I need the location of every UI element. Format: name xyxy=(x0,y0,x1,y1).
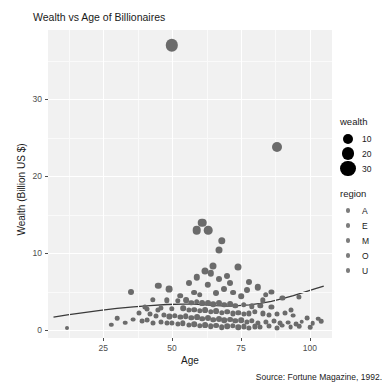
source-caption: Source: Fortune Magazine, 1992. xyxy=(256,372,382,382)
data-point xyxy=(139,319,144,324)
legend-item-label: U xyxy=(362,266,368,276)
data-point xyxy=(235,264,242,271)
legend-dot-icon xyxy=(342,147,355,160)
legend-dot-icon xyxy=(346,223,350,227)
data-point xyxy=(123,320,128,325)
data-point xyxy=(241,324,246,329)
legend-title: wealth xyxy=(340,116,371,127)
legend-swatch xyxy=(340,238,356,242)
x-tick-mark xyxy=(172,338,173,341)
gridline-major-horizontal xyxy=(48,330,332,331)
y-tick-label: 10 xyxy=(33,248,42,258)
data-point xyxy=(269,289,274,294)
data-point xyxy=(207,270,213,276)
gridline-major-horizontal xyxy=(48,176,332,177)
x-tick-label: 50 xyxy=(167,343,176,353)
data-point xyxy=(148,312,153,317)
data-point xyxy=(291,313,296,318)
data-point xyxy=(230,290,236,296)
data-point xyxy=(227,280,233,286)
data-point xyxy=(283,310,288,315)
data-point xyxy=(213,290,219,296)
legend-swatch xyxy=(340,161,356,176)
data-point xyxy=(166,285,173,292)
legend-item[interactable]: U xyxy=(340,263,369,278)
legend-dot-icon xyxy=(340,161,355,176)
legend-item[interactable]: E xyxy=(340,218,369,233)
legend-region: regionAEMOU xyxy=(340,188,369,278)
legend-item-label: O xyxy=(362,251,369,261)
data-point xyxy=(272,319,277,324)
gridline-minor-horizontal xyxy=(48,292,332,293)
legend-item-label: A xyxy=(362,206,368,216)
data-point xyxy=(238,317,244,323)
legend-swatch xyxy=(340,208,356,212)
data-point xyxy=(155,282,161,288)
data-point xyxy=(280,295,285,300)
gridline-minor-horizontal xyxy=(48,215,332,216)
data-point xyxy=(204,226,213,235)
data-point xyxy=(252,324,257,329)
data-point xyxy=(244,287,250,293)
legend-item[interactable]: 20 xyxy=(340,146,371,161)
data-point xyxy=(266,312,271,317)
data-point xyxy=(150,320,155,325)
data-point xyxy=(319,319,324,324)
legend-item[interactable]: 10 xyxy=(340,131,371,146)
gridline-major-horizontal xyxy=(48,253,332,254)
data-point xyxy=(258,325,263,330)
data-point xyxy=(128,289,134,295)
data-point xyxy=(210,263,217,270)
legend-item-label: 30 xyxy=(362,164,371,174)
data-point xyxy=(169,320,174,325)
page-title: Wealth vs Age of Billionaires xyxy=(33,11,165,23)
y-tick-label: 0 xyxy=(37,325,42,335)
gridline-minor-vertical xyxy=(275,30,276,338)
data-point xyxy=(288,307,293,312)
data-point xyxy=(224,273,230,279)
data-point xyxy=(145,306,150,311)
x-tick-label: 25 xyxy=(98,343,107,353)
data-point xyxy=(193,226,202,235)
data-point xyxy=(159,319,164,324)
y-tick-label: 20 xyxy=(33,171,42,181)
data-point xyxy=(260,298,265,303)
data-point xyxy=(180,321,185,326)
legend-dot-icon xyxy=(346,268,350,272)
data-point xyxy=(241,312,246,317)
data-point xyxy=(172,313,177,318)
y-tick-mark xyxy=(45,330,48,331)
legend-swatch xyxy=(340,268,356,272)
legend-item[interactable]: M xyxy=(340,233,369,248)
data-point xyxy=(233,303,238,308)
gridline-minor-vertical xyxy=(69,30,70,338)
legend-item[interactable]: A xyxy=(340,203,369,218)
scatter-chart: Wealth vs Age of Billionaires 0102030 25… xyxy=(0,0,388,392)
y-tick-label: 30 xyxy=(33,94,42,104)
data-point xyxy=(252,309,257,314)
data-point xyxy=(205,282,211,288)
data-point xyxy=(274,312,279,317)
x-tick-mark xyxy=(103,338,104,341)
data-point xyxy=(297,324,302,329)
plot-panel xyxy=(48,30,332,338)
data-point xyxy=(175,298,180,303)
data-point xyxy=(238,294,244,300)
data-point xyxy=(258,303,263,308)
data-point xyxy=(260,311,265,316)
y-tick-mark xyxy=(45,99,48,100)
gridline-major-horizontal xyxy=(48,99,332,100)
data-point xyxy=(280,323,285,328)
legend-item[interactable]: 30 xyxy=(340,161,371,176)
data-point xyxy=(274,325,279,330)
data-point xyxy=(115,316,120,321)
data-point xyxy=(272,142,282,152)
data-point xyxy=(186,280,192,286)
legend-item[interactable]: O xyxy=(340,248,369,263)
data-point xyxy=(153,313,158,318)
legend-item-label: E xyxy=(362,221,368,231)
legend-swatch xyxy=(340,134,356,144)
legend-dot-icon xyxy=(343,134,353,144)
data-point xyxy=(241,302,247,308)
x-tick-mark xyxy=(241,338,242,341)
